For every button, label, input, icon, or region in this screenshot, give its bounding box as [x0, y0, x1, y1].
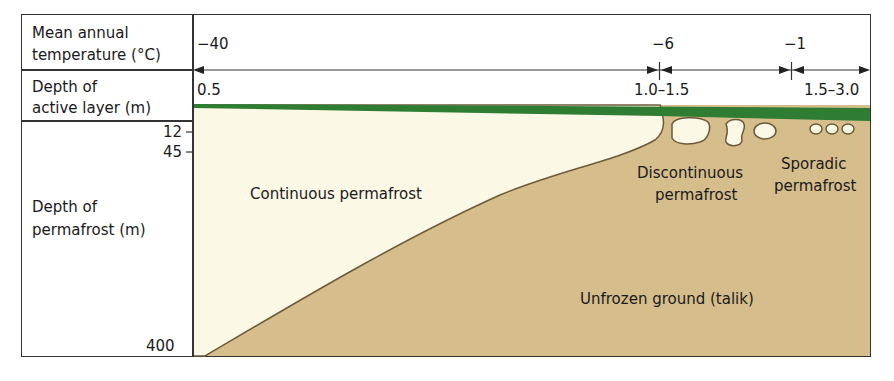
continuous-permafrost-label: Continuous permafrost [250, 185, 422, 203]
active-layer-depth: 1.0–1.5 [634, 81, 689, 99]
arrow-left-icon [661, 66, 672, 74]
arrow-right-icon [859, 66, 870, 74]
discontinuous-permafrost-patch [754, 123, 776, 139]
temperature-label-line2: temperature (°C) [32, 46, 161, 64]
row-divider [21, 120, 193, 122]
active-layer-label-line2: active layer (m) [32, 99, 151, 117]
discontinuous-permafrost-patch [672, 118, 710, 144]
active-layer-depth: 1.5–3.0 [804, 81, 859, 99]
temperature-value: −40 [197, 35, 229, 53]
sporadic-permafrost-patch [826, 124, 838, 134]
permafrost-depth-label-line1: Depth of [32, 198, 97, 216]
depth-tick-label: 12 [163, 123, 182, 141]
column-divider [192, 14, 194, 357]
arrow-left-icon [793, 66, 804, 74]
temperature-value: −6 [652, 35, 674, 53]
temperature-label-line1: Mean annual [32, 24, 129, 42]
permafrost-depth-label-line2: permafrost (m) [32, 221, 146, 239]
arrow-right-icon [779, 66, 790, 74]
unfrozen-ground-label: Unfrozen ground (talik) [580, 290, 754, 308]
arrow-right-icon [647, 66, 658, 74]
active-layer-label-line1: Depth of [32, 78, 97, 96]
sporadic-permafrost-label-line2: permafrost [774, 177, 856, 195]
discontinuous-permafrost-label-line2: permafrost [655, 186, 737, 204]
row-divider [21, 69, 193, 71]
arrow-left-icon [193, 66, 204, 74]
active-layer-depth: 0.5 [197, 81, 221, 99]
sporadic-permafrost-label-line1: Sporadic [781, 155, 847, 173]
depth-tick-label: 45 [163, 143, 182, 161]
depth-tick-label: 400 [146, 337, 175, 355]
discontinuous-permafrost-label-line1: Discontinuous [637, 164, 743, 182]
discontinuous-permafrost-patch [726, 120, 745, 146]
sporadic-permafrost-patch [810, 124, 822, 134]
sporadic-permafrost-patch [842, 124, 854, 134]
temperature-value: −1 [784, 35, 806, 53]
